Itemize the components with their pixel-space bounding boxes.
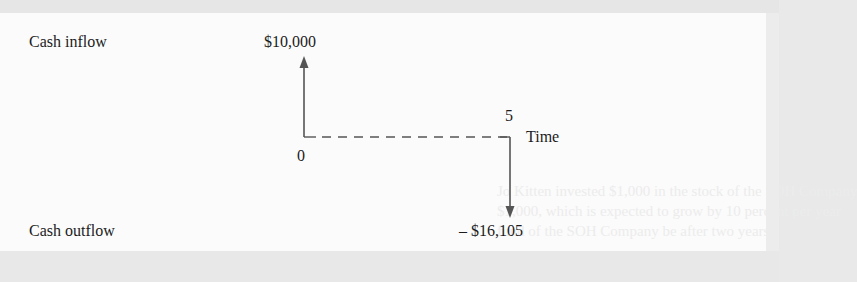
time-start-label: 0 bbox=[297, 147, 305, 165]
outflow-arrow-icon bbox=[506, 137, 515, 218]
outflow-amount: – $16,105 bbox=[459, 222, 523, 240]
inflow-amount: $10,000 bbox=[264, 33, 316, 51]
time-axis-label: Time bbox=[526, 128, 559, 146]
inflow-arrow-icon bbox=[300, 56, 309, 137]
cash-inflow-label: Cash inflow bbox=[29, 33, 107, 51]
cash-outflow-label: Cash outflow bbox=[29, 222, 115, 240]
time-end-label: 5 bbox=[505, 107, 513, 125]
